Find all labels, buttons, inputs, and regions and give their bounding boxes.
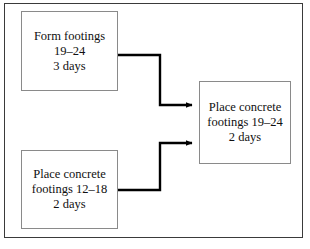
node-form-footings: Form footings 19–24 3 days [21,11,118,91]
node-place-concrete-12-18-line-3: 2 days [53,197,85,212]
node-place-concrete-19-24-line-1: Place concrete [209,100,282,115]
node-place-concrete-footings-19-24: Place concrete footings 19–24 2 days [199,81,291,164]
node-place-concrete-footings-12-18: Place concrete footings 12–18 2 days [21,150,118,229]
node-form-footings-line-1: Form footings [34,29,105,44]
node-place-concrete-12-18-line-1: Place concrete [33,167,106,182]
diagram-canvas: Form footings 19–24 3 days Place concret… [0,0,310,249]
node-form-footings-line-2: 19–24 [54,44,85,59]
node-place-concrete-12-18-line-2: footings 12–18 [32,182,107,197]
node-place-concrete-19-24-line-2: footings 19–24 [207,115,282,130]
node-form-footings-line-3: 3 days [53,59,85,74]
node-place-concrete-19-24-line-3: 2 days [229,130,261,145]
